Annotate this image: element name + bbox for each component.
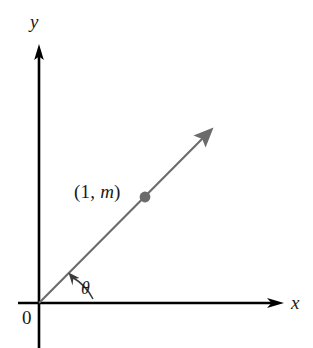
slope-ray-line	[39, 138, 203, 303]
point-label-open: (1,	[74, 181, 100, 202]
point-label: (1, m)	[74, 182, 121, 201]
y-axis-label: y	[30, 12, 38, 31]
coordinate-plane-figure: y x 0 (1, m) θ	[0, 0, 313, 348]
theta-angle-label: θ	[81, 279, 90, 297]
figure-canvas	[0, 0, 313, 348]
x-axis-label: x	[291, 293, 299, 312]
point-label-variable: m	[100, 181, 114, 202]
origin-label: 0	[22, 308, 32, 327]
point-marker	[140, 192, 151, 203]
angle-arc-arrowhead	[69, 273, 80, 286]
point-label-close: )	[114, 181, 121, 202]
